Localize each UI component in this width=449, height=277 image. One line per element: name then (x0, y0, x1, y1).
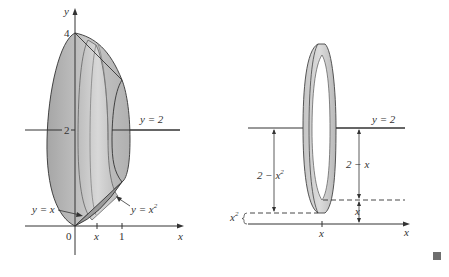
label-y-equals-x: y = x (31, 203, 55, 215)
y-axis-arrow-icon (73, 8, 78, 15)
y-axis-label: y (63, 5, 69, 17)
label-x-dim: x (354, 205, 360, 217)
end-of-proof-mark (433, 252, 441, 260)
x-axis-label: x (177, 230, 183, 242)
dim-arrow-icon (357, 218, 361, 223)
label-2-minus-x-squared: 2 − x2 (257, 168, 284, 181)
label-x-squared: x2 (229, 210, 239, 223)
tick-label-x: x (93, 230, 99, 242)
tick-label-4: 4 (64, 27, 70, 39)
brace-x-squared (242, 213, 247, 224)
x-axis-label-right: x (403, 226, 409, 238)
leader-arrow-icon (116, 196, 122, 202)
washer-diagram: y 4 2 0 x 1 x y = 2 y = x y = x2 (0, 0, 449, 277)
tick-label-2: 2 (64, 124, 70, 136)
tick-label-1: 1 (119, 230, 125, 242)
x-axis-arrow-icon (177, 224, 184, 229)
label-2-minus-x: 2 − x (346, 158, 369, 170)
solid-of-revolution (25, 33, 180, 226)
tick-label-x-right: x (318, 227, 324, 239)
label-y-equals-x-squared: y = x2 (130, 202, 158, 215)
label-y-equals-2-right: y = 2 (371, 113, 396, 125)
dim-arrow-icon (272, 129, 276, 134)
label-y-equals-2: y = 2 (139, 113, 164, 125)
tick-label-0: 0 (66, 230, 72, 242)
washer (248, 44, 405, 213)
dim-arrow-icon (357, 129, 361, 134)
dim-arrow-icon (357, 194, 361, 199)
dim-arrow-icon (272, 207, 276, 212)
